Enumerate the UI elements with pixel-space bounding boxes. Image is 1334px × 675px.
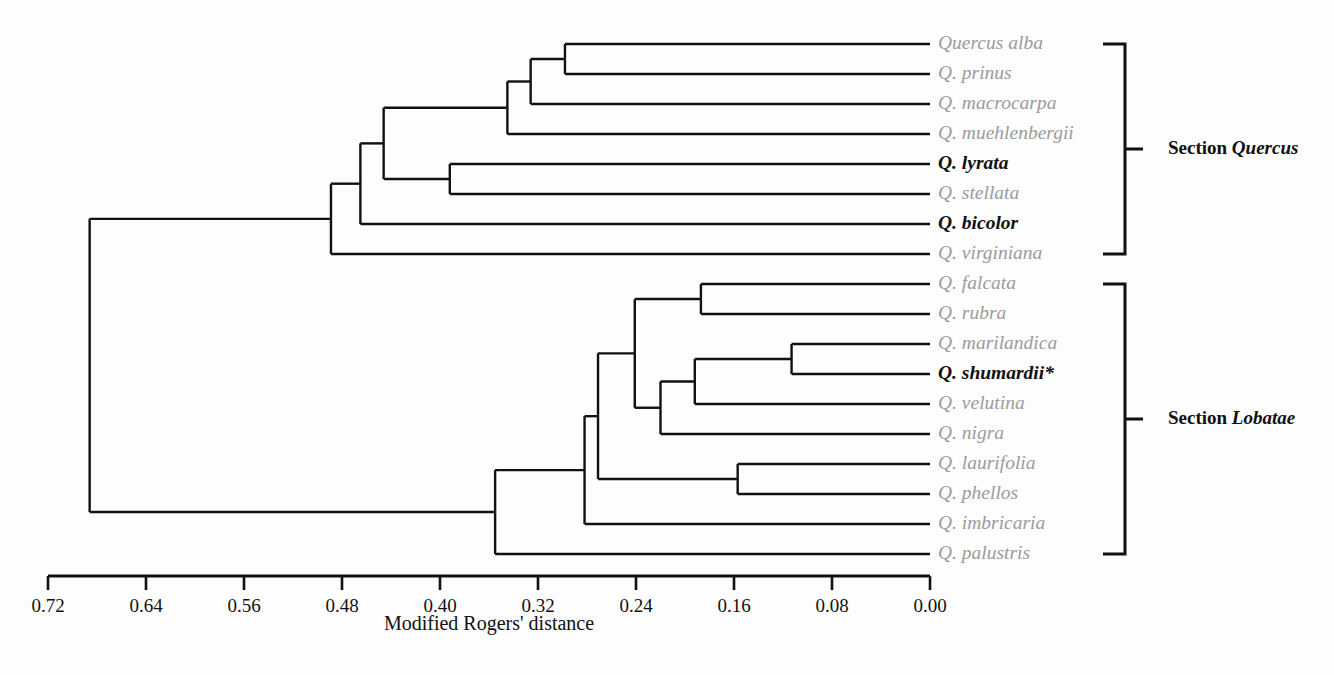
axis-tick-label-0.16: 0.16 — [717, 595, 750, 616]
axis-tick-label-0.72: 0.72 — [31, 595, 64, 616]
section-taxon-name: Lobatae — [1231, 407, 1296, 428]
taxon-label-q-lyrata: Q. lyrata — [938, 152, 1009, 173]
taxon-label-q-phellos: Q. phellos — [938, 482, 1018, 503]
taxon-label-q-rubra: Q. rubra — [938, 302, 1007, 323]
taxon-label-q-shumardii: Q. shumardii* — [938, 362, 1054, 383]
taxon-label-q-muehlenbergii: Q. muehlenbergii — [938, 122, 1074, 143]
section-brackets: Section QuercusSection Lobatae — [1103, 44, 1298, 554]
taxon-label-q-falcata: Q. falcata — [938, 272, 1016, 293]
taxon-label-q-bicolor: Q. bicolor — [938, 212, 1019, 233]
bracket-section-lobatae — [1103, 284, 1125, 554]
taxon-label-q-stellata: Q. stellata — [938, 182, 1019, 203]
section-prefix: Section — [1168, 407, 1232, 428]
distance-axis: 0.720.640.560.480.400.320.240.160.080.00… — [31, 576, 946, 635]
taxon-label-q-prinus: Q. prinus — [938, 62, 1012, 83]
taxon-label-quercus-alba: Quercus alba — [938, 32, 1043, 53]
axis-tick-label-0.08: 0.08 — [815, 595, 848, 616]
section-label-quercus: Section Quercus — [1168, 137, 1298, 158]
taxon-label-q-nigra: Q. nigra — [938, 422, 1004, 443]
axis-tick-label-0.00: 0.00 — [913, 595, 946, 616]
axis-tick-label-0.64: 0.64 — [129, 595, 163, 616]
axis-tick-label-0.48: 0.48 — [325, 595, 358, 616]
taxon-label-q-velutina: Q. velutina — [938, 392, 1025, 413]
taxon-label-q-marilandica: Q. marilandica — [938, 332, 1057, 353]
taxon-label-q-virginiana: Q. virginiana — [938, 242, 1043, 263]
dendrogram-figure: Quercus albaQ. prinusQ. macrocarpaQ. mue… — [0, 0, 1334, 675]
section-label-lobatae: Section Lobatae — [1168, 407, 1296, 428]
bracket-section-quercus — [1103, 44, 1125, 254]
axis-title: Modified Rogers' distance — [384, 612, 594, 635]
taxon-label-q-palustris: Q. palustris — [938, 542, 1030, 563]
taxon-label-q-imbricaria: Q. imbricaria — [938, 512, 1046, 533]
taxon-labels: Quercus albaQ. prinusQ. macrocarpaQ. mue… — [938, 32, 1074, 563]
taxon-label-q-macrocarpa: Q. macrocarpa — [938, 92, 1057, 113]
axis-tick-label-0.24: 0.24 — [619, 595, 653, 616]
taxon-label-q-laurifolia: Q. laurifolia — [938, 452, 1036, 473]
tree-branches — [90, 44, 930, 554]
section-prefix: Section — [1168, 137, 1232, 158]
phylogenetic-tree: Quercus albaQ. prinusQ. macrocarpaQ. mue… — [0, 0, 1334, 675]
section-taxon-name: Quercus — [1232, 137, 1299, 158]
axis-tick-label-0.56: 0.56 — [227, 595, 260, 616]
